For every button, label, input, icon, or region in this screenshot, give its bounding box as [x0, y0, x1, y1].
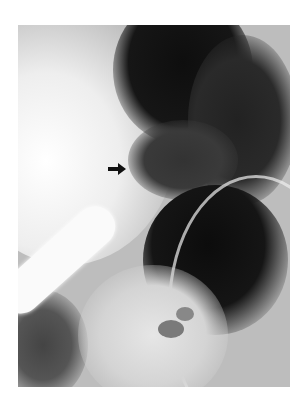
arrow-icon	[108, 163, 126, 175]
radiograph-image	[18, 25, 290, 387]
